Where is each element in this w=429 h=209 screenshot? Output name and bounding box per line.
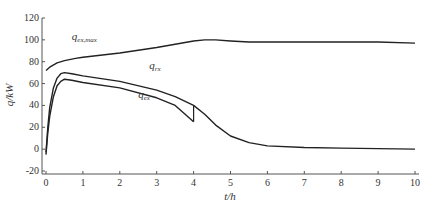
y-tick-label: 20 xyxy=(29,121,39,132)
x-tick-label: 7 xyxy=(302,177,307,188)
series-annotation: qex xyxy=(138,88,151,102)
series-labels: qex,maxqrxqex xyxy=(72,30,162,102)
x-tick-label: 9 xyxy=(376,177,381,188)
x-axis-label: t/h xyxy=(224,190,236,202)
series-annotation: qrx xyxy=(149,59,161,73)
y-tick-label: 60 xyxy=(29,78,39,89)
y-tick-label: 100 xyxy=(24,34,39,45)
x-tick-label: 1 xyxy=(80,177,85,188)
x-tick-label: 10 xyxy=(410,177,420,188)
x-tick-label: 0 xyxy=(44,177,49,188)
x-tick-label: 8 xyxy=(339,177,344,188)
x-tick-label: 6 xyxy=(265,177,270,188)
series-line-q-ex-max xyxy=(46,40,415,71)
y-axis-label: q/kW xyxy=(3,83,15,106)
x-tick-label: 5 xyxy=(228,177,233,188)
series-lines xyxy=(46,40,415,155)
x-tick-label: 4 xyxy=(191,177,196,188)
y-tick-label: 120 xyxy=(24,12,39,23)
x-tick-label: 3 xyxy=(154,177,159,188)
series-line-q-ex xyxy=(46,79,194,154)
series-annotation: qex,max xyxy=(72,30,98,44)
y-tick-label: 40 xyxy=(29,99,39,110)
line-chart: 012345678910-20020406080100120 qex,maxqr… xyxy=(0,0,429,209)
y-tick-label: 80 xyxy=(29,56,39,67)
y-tick-label: 0 xyxy=(34,143,39,154)
x-tick-label: 2 xyxy=(117,177,122,188)
y-tick-label: -20 xyxy=(26,165,39,176)
